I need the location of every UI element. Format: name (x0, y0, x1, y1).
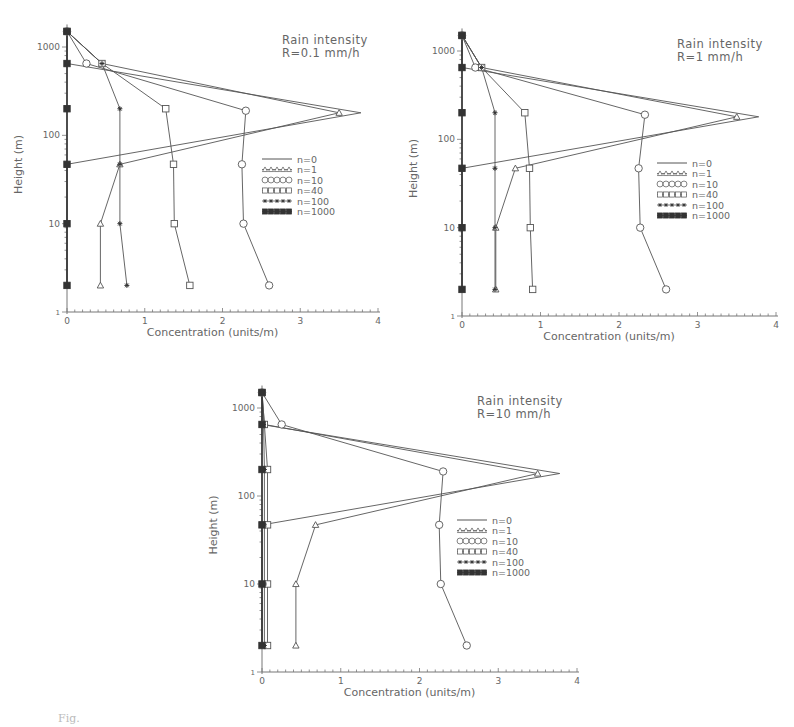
circle-marker (669, 181, 675, 187)
triangle-marker (293, 581, 299, 587)
legend-marker (463, 570, 468, 575)
square-marker (481, 549, 486, 554)
legend-marker (286, 188, 291, 193)
star-marker (492, 287, 497, 292)
filled-square-marker (469, 570, 474, 575)
legend-marker (664, 203, 668, 207)
legend-item-n1000: n=1000 (262, 206, 335, 217)
legend-marker (658, 203, 662, 207)
chart-subtitle: R=10 mm/h (477, 407, 551, 421)
star-marker (682, 203, 686, 207)
legend-label: n=100 (297, 196, 329, 207)
legend-marker (657, 213, 662, 218)
legend-marker (663, 192, 668, 197)
legend-item-n100: n=100 (262, 196, 329, 207)
legend-marker (287, 199, 291, 203)
filled-square-marker (64, 106, 70, 112)
x-tick-label: 1 (142, 316, 148, 326)
star-marker (479, 65, 484, 70)
legend-marker (475, 538, 481, 544)
legend-item-n1: n=1 (262, 164, 317, 175)
circle-marker (472, 64, 479, 71)
square-marker (457, 549, 462, 554)
y-tick-label: 1000 (432, 46, 455, 56)
legend-label: n=1 (692, 168, 712, 179)
chart-panel-r10: 012341101001000Concentration (units/m)He… (207, 386, 580, 699)
x-tick-label: 0 (259, 676, 265, 686)
square-marker (469, 549, 474, 554)
legend-marker (280, 177, 286, 183)
legend-marker (463, 538, 469, 544)
legend: n=0n=1n=10n=40n=100n=1000 (262, 154, 335, 218)
series-markers-n10 (258, 389, 470, 649)
circle-marker (439, 468, 446, 475)
star-marker (664, 203, 668, 207)
x-tick-label: 1 (338, 676, 344, 686)
x-tick-label: 4 (375, 316, 381, 326)
legend-marker (475, 570, 480, 575)
legend-item-n100: n=100 (657, 200, 724, 211)
y-axis-label: Height (m) (12, 135, 25, 194)
series-line-n0 (262, 393, 560, 646)
chart-title: Rain intensity (477, 394, 563, 408)
filled-square-marker (459, 224, 465, 230)
legend-marker (682, 203, 686, 207)
legend-marker (281, 199, 285, 203)
star-marker (275, 199, 279, 203)
series-line-n10 (67, 31, 269, 285)
legend-marker (675, 192, 680, 197)
legend-marker (469, 549, 474, 554)
star-marker (470, 560, 474, 564)
chart-title: Rain intensity (282, 33, 368, 47)
legend-item-n0: n=0 (657, 158, 712, 169)
legend-marker (262, 177, 268, 183)
filled-square-marker (463, 570, 468, 575)
filled-square-marker (663, 213, 668, 218)
legend-item-n0: n=0 (457, 515, 512, 526)
filled-square-marker (481, 570, 486, 575)
legend-label: n=10 (492, 536, 518, 547)
star-marker (124, 283, 129, 288)
square-marker (170, 161, 176, 167)
filled-square-marker (459, 165, 465, 171)
series-line-n100 (67, 31, 127, 285)
y-tick-label: 100 (238, 491, 255, 501)
circle-marker (242, 107, 249, 114)
legend-marker (669, 181, 675, 187)
square-marker (163, 106, 169, 112)
filled-square-marker (259, 389, 265, 395)
chart-title: Rain intensity (677, 37, 763, 51)
y-tick-label: 1 (451, 313, 455, 321)
chart-subtitle: R=1 mm/h (677, 50, 743, 64)
figure-caption: Fig. (58, 712, 80, 725)
circle-marker (469, 538, 475, 544)
series-markers-n10 (458, 32, 670, 293)
legend-label: n=100 (692, 200, 724, 211)
legend-marker (268, 209, 273, 214)
legend-marker (475, 549, 480, 554)
triangle-marker (97, 220, 103, 226)
filled-square-marker (459, 32, 465, 38)
star-marker (117, 162, 122, 167)
legend-marker (669, 192, 674, 197)
figure-canvas: 012341101001000Concentration (units/m)He… (0, 0, 794, 727)
series-line-n10 (262, 393, 467, 646)
legend-marker (681, 213, 686, 218)
legend-label: n=40 (297, 185, 323, 196)
legend-label: n=1 (492, 525, 512, 536)
legend-marker (275, 199, 279, 203)
star-marker (492, 166, 497, 171)
y-tick-label: 1 (56, 309, 60, 317)
x-axis-label: Concentration (units/m) (344, 686, 475, 699)
circle-marker (83, 60, 90, 67)
square-marker (286, 188, 291, 193)
legend-item-n10: n=10 (262, 175, 323, 186)
filled-square-marker (64, 28, 70, 34)
filled-square-marker (657, 213, 662, 218)
legend-marker (457, 549, 462, 554)
star-marker (269, 199, 273, 203)
legend-marker (262, 209, 267, 214)
chart-panel-r0.1: 012341101001000Concentration (units/m)He… (12, 24, 381, 339)
legend-marker (268, 177, 274, 183)
series-markers-n10 (63, 28, 273, 289)
